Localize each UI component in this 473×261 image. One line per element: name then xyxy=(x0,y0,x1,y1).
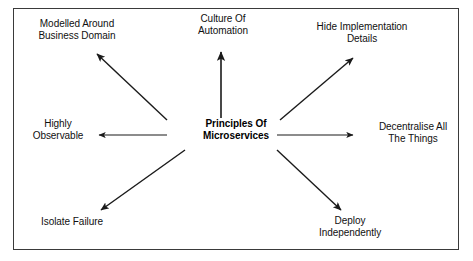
node-modelled-around-business-domain: Modelled Around Business Domain xyxy=(16,18,138,41)
node-label-line-2: Business Domain xyxy=(16,30,138,42)
node-label-line-1: Highly xyxy=(20,118,96,130)
node-deploy-independently: Deploy Independently xyxy=(304,215,396,238)
node-hide-implementation-details: Hide Implementation Details xyxy=(293,21,431,44)
node-isolate-failure: Isolate Failure xyxy=(26,216,118,228)
node-label-line-1: Isolate Failure xyxy=(26,216,118,228)
node-decentralise-all-the-things: Decentralise All The Things xyxy=(364,121,462,144)
center-node-line-2: Microservices xyxy=(178,130,294,142)
node-label-line-1: Culture Of xyxy=(175,13,271,25)
arrow-lower-right xyxy=(277,150,341,210)
arrow-upper-right xyxy=(280,58,353,120)
node-label-line-1: Modelled Around xyxy=(16,18,138,30)
node-label-line-1: Deploy xyxy=(304,215,396,227)
node-label-line-2: Details xyxy=(293,33,431,45)
arrow-upper-left xyxy=(97,54,167,120)
node-label-line-2: Independently xyxy=(304,227,396,239)
node-label-line-1: Decentralise All xyxy=(364,121,462,133)
node-label-line-2: Automation xyxy=(175,25,271,37)
center-node-principles-of-microservices: Principles Of Microservices xyxy=(178,118,294,141)
diagram-canvas: Principles Of Microservices Modelled Aro… xyxy=(0,0,473,261)
center-node-line-1: Principles Of xyxy=(178,118,294,130)
node-culture-of-automation: Culture Of Automation xyxy=(175,13,271,36)
arrow-lower-left xyxy=(101,150,185,210)
node-label-line-2: Observable xyxy=(20,130,96,142)
node-highly-observable: Highly Observable xyxy=(20,118,96,141)
node-label-line-1: Hide Implementation xyxy=(293,21,431,33)
node-label-line-2: The Things xyxy=(364,133,462,145)
